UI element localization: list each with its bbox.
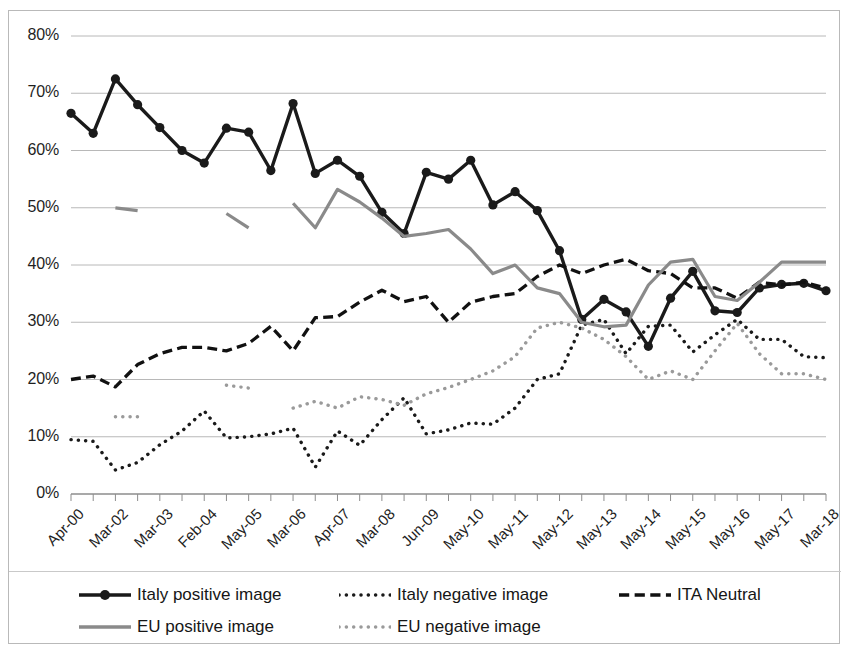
data-point-marker xyxy=(311,169,320,178)
data-point-marker xyxy=(688,267,697,276)
data-point-marker xyxy=(244,128,253,137)
data-point-marker xyxy=(533,206,542,215)
legend-swatch-icon xyxy=(79,620,131,634)
data-point-marker xyxy=(66,109,75,118)
data-point-marker xyxy=(555,246,564,255)
series-line-2 xyxy=(71,319,826,470)
data-point-marker xyxy=(644,342,653,351)
data-point-marker xyxy=(89,129,98,138)
data-point-marker xyxy=(444,175,453,184)
series-line-3 xyxy=(71,259,826,387)
data-point-marker xyxy=(666,294,675,303)
legend-label: Italy positive image xyxy=(137,585,282,605)
legend-swatch-icon xyxy=(619,588,671,602)
plot-area: 0%10%20%30%40%50%60%70%80% Apr-00Mar-02M… xyxy=(9,11,841,531)
chart-svg xyxy=(9,11,841,531)
y-axis-tick-label: 60% xyxy=(11,141,59,159)
data-point-marker xyxy=(288,99,297,108)
legend-label: EU positive image xyxy=(137,617,274,637)
legend-item-2[interactable]: Italy negative image xyxy=(339,580,548,610)
y-axis-tick-label: 10% xyxy=(11,427,59,445)
data-point-marker xyxy=(355,172,364,181)
series-line-4 xyxy=(115,208,137,211)
series-line-5 xyxy=(226,385,248,388)
legend-swatch-icon xyxy=(339,588,391,602)
legend-swatch-icon xyxy=(79,588,131,602)
data-point-marker xyxy=(710,306,719,315)
y-axis-tick-label: 20% xyxy=(11,370,59,388)
series-line-4 xyxy=(293,189,826,326)
data-point-marker xyxy=(333,156,342,165)
data-point-marker xyxy=(222,124,231,133)
legend-item-3[interactable]: ITA Neutral xyxy=(619,580,761,610)
legend-label: ITA Neutral xyxy=(677,585,761,605)
y-axis-tick-label: 80% xyxy=(11,26,59,44)
data-point-marker xyxy=(111,74,120,83)
legend-label: EU negative image xyxy=(397,617,541,637)
legend-item-5[interactable]: EU negative image xyxy=(339,612,541,642)
y-axis-tick-label: 30% xyxy=(11,312,59,330)
data-point-marker xyxy=(622,307,631,316)
data-point-marker xyxy=(266,166,275,175)
series-line-1 xyxy=(71,79,826,346)
data-point-marker xyxy=(599,295,608,304)
legend-swatch-icon xyxy=(339,620,391,634)
y-axis-tick-label: 40% xyxy=(11,255,59,273)
data-point-marker xyxy=(177,146,186,155)
data-point-marker xyxy=(488,200,497,209)
data-point-marker xyxy=(511,187,520,196)
legend-item-4[interactable]: EU positive image xyxy=(79,612,274,642)
series-line-4 xyxy=(226,214,248,228)
chart-legend: Italy positive imageItaly negative image… xyxy=(9,571,841,643)
data-point-marker xyxy=(466,156,475,165)
y-axis-tick-label: 70% xyxy=(11,83,59,101)
legend-label: Italy negative image xyxy=(397,585,548,605)
data-point-marker xyxy=(200,158,209,167)
y-axis-tick-label: 50% xyxy=(11,198,59,216)
series-line-5 xyxy=(293,322,826,408)
data-point-marker xyxy=(133,100,142,109)
legend-item-1[interactable]: Italy positive image xyxy=(79,580,282,610)
data-point-marker xyxy=(733,308,742,317)
data-point-marker xyxy=(422,168,431,177)
data-point-marker xyxy=(155,123,164,132)
chart-container: 0%10%20%30%40%50%60%70%80% Apr-00Mar-02M… xyxy=(8,10,840,644)
y-axis-tick-label: 0% xyxy=(11,484,59,502)
